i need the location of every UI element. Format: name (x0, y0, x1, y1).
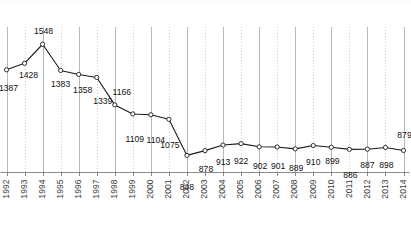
data-label-1996: 1358 (73, 85, 92, 95)
data-point-marker[interactable] (365, 147, 369, 151)
data-label-2007: 901 (271, 161, 286, 171)
data-label-2001: 1075 (160, 140, 179, 150)
data-point-marker[interactable] (4, 68, 8, 72)
data-label-2004: 913 (216, 157, 231, 167)
data-label-2012: 887 (360, 160, 375, 170)
data-label-2005: 922 (234, 156, 249, 166)
data-label-1999: 1109 (126, 134, 145, 144)
x-axis-label-2000: 2000 (145, 179, 155, 198)
data-point-marker[interactable] (347, 147, 351, 151)
data-label-2009: 910 (306, 157, 321, 167)
data-label-2014: 879 (397, 130, 411, 140)
x-axis-label-1993: 1993 (19, 179, 29, 198)
data-point-marker[interactable] (59, 68, 63, 72)
x-axis-label-2002: 2002 (181, 179, 191, 198)
data-label-1998: 1166 (113, 87, 132, 97)
series-polyline (7, 44, 404, 155)
x-axis-label-2004: 2004 (217, 179, 227, 198)
data-label-1994: 1548 (34, 26, 53, 36)
x-axis-label-1999: 1999 (127, 179, 137, 198)
data-label-1997: 1339 (93, 96, 112, 106)
x-axis-label-1992: 1992 (1, 179, 11, 198)
series-line-group (7, 44, 404, 155)
x-axis-label-2011: 2011 (344, 179, 354, 198)
data-point-marker[interactable] (311, 143, 315, 147)
x-axis-label-2007: 2007 (271, 179, 281, 198)
x-axis-label-2006: 2006 (253, 179, 263, 198)
x-axis-label-2010: 2010 (326, 179, 336, 198)
data-point-marker[interactable] (275, 145, 279, 149)
data-label-2010: 899 (325, 156, 340, 166)
data-point-marker[interactable] (293, 147, 297, 151)
x-axis-label-2005: 2005 (235, 179, 245, 198)
x-axis-label-2003: 2003 (199, 179, 209, 198)
data-point-marker[interactable] (113, 103, 117, 107)
chart-page: 1387142815481383135813391166110911041075… (0, 0, 411, 251)
x-axis-label-1996: 1996 (73, 179, 83, 198)
data-label-1995: 1383 (51, 79, 70, 89)
x-axis-label-1997: 1997 (91, 179, 101, 198)
data-point-marker[interactable] (239, 142, 243, 146)
line-chart-plot-area: 1387142815481383135813391166110911041075… (0, 0, 411, 251)
data-point-marker[interactable] (95, 75, 99, 79)
data-point-marker[interactable] (131, 112, 135, 116)
x-axis-label-2013: 2013 (380, 179, 390, 198)
x-axis-label-2008: 2008 (289, 179, 299, 198)
data-label-2013: 898 (379, 160, 394, 170)
data-point-marker[interactable] (40, 42, 44, 46)
data-label-2003: 878 (199, 164, 214, 174)
x-axis-label-2001: 2001 (163, 179, 173, 198)
data-label-1993: 1428 (19, 70, 38, 80)
data-point-marker[interactable] (383, 145, 387, 149)
data-point-marker[interactable] (149, 113, 153, 117)
data-point-marker[interactable] (22, 61, 26, 65)
data-point-marker[interactable] (257, 145, 261, 149)
x-axis-label-2009: 2009 (308, 179, 318, 198)
x-axis-label-1994: 1994 (37, 179, 47, 198)
x-axis-label-1995: 1995 (55, 179, 65, 198)
x-axis-label-1998: 1998 (109, 179, 119, 198)
data-point-marker[interactable] (77, 72, 81, 76)
data-point-marker[interactable] (203, 149, 207, 153)
x-axis-label-2014: 2014 (398, 179, 408, 198)
data-label-1992: 1387 (0, 83, 18, 93)
data-point-marker[interactable] (221, 143, 225, 147)
data-label-2008: 889 (289, 163, 304, 173)
data-point-marker[interactable] (401, 148, 405, 152)
data-label-2006: 902 (253, 161, 268, 171)
data-point-marker[interactable] (167, 117, 171, 121)
data-point-marker[interactable] (329, 145, 333, 149)
x-axis-label-2012: 2012 (362, 179, 372, 198)
x-axis-tick-label-group: 1992199319941995199619971998199920002001… (1, 179, 408, 198)
data-point-marker[interactable] (185, 153, 189, 157)
chart-svg: 1387142815481383135813391166110911041075… (0, 0, 411, 251)
marker-group (4, 42, 405, 157)
data-label-2011: 886 (343, 170, 358, 180)
